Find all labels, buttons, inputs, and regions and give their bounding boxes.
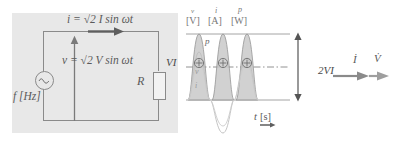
waveform-plot <box>186 30 311 140</box>
y-axis-voltage-unit: [V] <box>186 16 200 26</box>
current-curve-label: i <box>195 82 197 90</box>
phasor-diagram: İ V̇ <box>333 52 391 92</box>
time-axis-unit: [s] <box>260 111 271 122</box>
circuit-wire-bottom <box>43 120 158 121</box>
circuit-wire-left-lower <box>43 89 44 121</box>
y-axis-current-unit: [A] <box>208 16 222 26</box>
y-axis-power-symbol: p <box>238 6 242 14</box>
circuit-wire-right-lower <box>158 98 159 121</box>
waveform-chart: v [V] i [A] p [W] <box>186 6 311 140</box>
circuit-wire-right-upper <box>158 31 159 71</box>
peak-to-peak-arrow <box>294 33 301 102</box>
y-axis-power-unit: [W] <box>231 16 247 26</box>
peak-to-peak-label: 2VI <box>318 65 334 76</box>
resistor-symbol <box>153 72 166 100</box>
current-equation-label: i = √2 I sin ωt <box>67 14 133 26</box>
mean-power-label: VI <box>166 57 176 68</box>
time-axis-arrow <box>260 122 276 127</box>
y-axis-current-symbol: i <box>215 7 217 15</box>
time-axis-label: t[s] <box>254 112 271 123</box>
circuit-panel: i = √2 I sin ωt v = √2 V sin ωt f [Hz] R <box>12 13 178 133</box>
sine-wave-icon <box>38 76 51 85</box>
current-phasor-head <box>357 72 369 81</box>
time-axis-symbol: t <box>254 111 257 122</box>
voltage-direction-arrow <box>69 35 80 121</box>
voltage-curve-label: v <box>195 68 199 76</box>
figure-root: i = √2 I sin ωt v = √2 V sin ωt f [Hz] R… <box>0 0 393 146</box>
source-frequency-label: f [Hz] <box>13 91 41 103</box>
ac-source-symbol <box>35 71 54 90</box>
current-direction-arrow <box>88 26 126 37</box>
y-axis-voltage-symbol: v <box>191 8 194 15</box>
power-curve-label: p <box>205 37 210 46</box>
voltage-phasor-head <box>377 72 389 81</box>
phasor-arrows <box>333 52 391 92</box>
current-phasor-label: İ <box>353 54 357 65</box>
resistor-label: R <box>137 75 144 87</box>
voltage-equation-label: v = √2 V sin ωt <box>62 55 133 67</box>
voltage-phasor-label: V̇ <box>374 53 381 64</box>
circuit-wire-left <box>43 31 44 72</box>
